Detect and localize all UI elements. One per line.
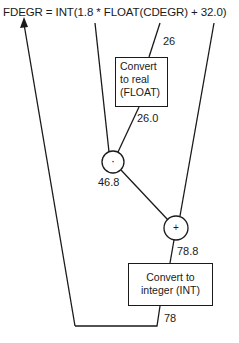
- int-output-line: [75, 306, 160, 326]
- value-sum: 78.8: [177, 245, 198, 257]
- float-conversion-box: Convert to real (FLOAT): [115, 57, 168, 107]
- cdegr-line: [149, 23, 160, 57]
- constant-32-line: [180, 23, 214, 216]
- float-box-line-3: (FLOAT): [120, 86, 167, 99]
- value-float-out: 26.0: [137, 112, 158, 124]
- value-product: 46.8: [98, 176, 119, 188]
- plus-icon: +: [166, 223, 186, 233]
- float-output-line: [118, 107, 139, 152]
- arrow-head-icon: [20, 17, 28, 28]
- value-cdegr: 26: [163, 35, 175, 47]
- equation-text: FDEGR = INT(1.8 * FLOAT(CDEGR) + 32.0): [3, 6, 226, 18]
- int-box-line-1: Convert to: [129, 271, 212, 284]
- float-box-line-2: to real: [120, 73, 167, 86]
- value-result: 78: [164, 312, 176, 324]
- int-box-line-2: integer (INT): [129, 284, 212, 297]
- float-box-line-1: Convert: [120, 60, 167, 73]
- int-conversion-box: Convert to integer (INT): [128, 263, 213, 306]
- constant-1.8-line: [95, 23, 109, 152]
- sum-line: [170, 240, 174, 263]
- product-line: [121, 170, 168, 220]
- result-to-fdegr-line: [24, 24, 75, 326]
- multiply-icon: ·: [103, 156, 123, 166]
